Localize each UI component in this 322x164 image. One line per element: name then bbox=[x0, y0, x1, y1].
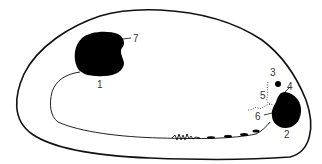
bead bbox=[224, 135, 232, 138]
label-7: 7 bbox=[133, 33, 139, 44]
bead bbox=[253, 130, 260, 133]
label-4: 4 bbox=[287, 81, 293, 92]
pointer-7 bbox=[123, 38, 131, 39]
label-6: 6 bbox=[255, 111, 261, 122]
label-5: 5 bbox=[260, 90, 266, 101]
large-nucleus bbox=[75, 32, 124, 77]
inner-filament bbox=[50, 72, 270, 139]
dot-3 bbox=[275, 81, 281, 87]
bead bbox=[240, 133, 248, 136]
label-3: 3 bbox=[270, 67, 276, 78]
cell-diagram: 1 7 3 4 5 6 2 bbox=[0, 0, 322, 164]
bead bbox=[207, 136, 215, 139]
pointer-6 bbox=[264, 113, 272, 115]
label-2: 2 bbox=[284, 129, 290, 140]
cell-outline bbox=[17, 10, 311, 160]
label-1: 1 bbox=[97, 79, 103, 90]
small-nucleus bbox=[272, 92, 301, 128]
zigzag-segment bbox=[172, 134, 200, 140]
